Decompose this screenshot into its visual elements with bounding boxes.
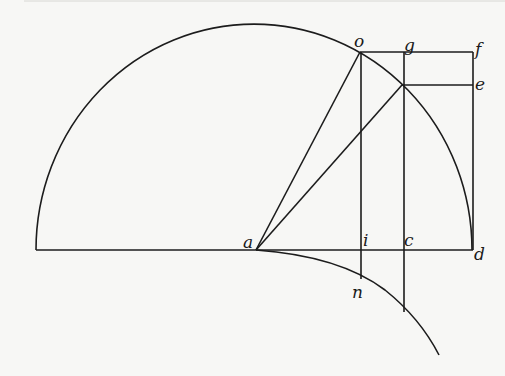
label-o: o — [354, 31, 364, 51]
label-n: n — [352, 282, 363, 302]
label-e: e — [475, 74, 485, 94]
label-a: a — [243, 232, 253, 252]
geometric-diagram: o g f e a i c d n — [0, 0, 505, 376]
label-i: i — [363, 230, 368, 250]
lower-curve — [256, 250, 439, 355]
label-c: c — [404, 230, 414, 250]
label-f: f — [473, 39, 484, 59]
semicircle-arc — [36, 24, 472, 250]
label-d: d — [474, 244, 485, 264]
label-g: g — [404, 35, 415, 55]
